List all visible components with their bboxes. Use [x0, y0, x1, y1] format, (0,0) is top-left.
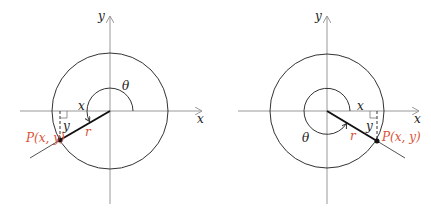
point-label: P(x, y) — [381, 130, 421, 144]
r-label: r — [350, 129, 357, 143]
y-axis-label: y — [314, 9, 322, 23]
right-angle-mark — [60, 111, 67, 118]
diagram-canvas: y x θ x y r P(x, y) y x θ x y r P(x, y) — [0, 0, 431, 214]
right-angle-mark — [370, 111, 377, 118]
x-axis-label: x — [197, 112, 204, 126]
point-label: P(x, y) — [25, 131, 65, 145]
x-axis-label: x — [414, 112, 421, 126]
r-label: r — [85, 125, 92, 139]
y-leg-label: y — [365, 119, 373, 133]
point-p — [375, 139, 380, 144]
x-leg-label: x — [78, 99, 85, 113]
right-diagram: y x θ x y r P(x, y) — [238, 9, 421, 204]
left-diagram: y x θ x y r P(x, y) — [20, 9, 204, 204]
theta-label: θ — [122, 79, 130, 93]
x-leg-label: x — [357, 99, 364, 113]
theta-label: θ — [302, 131, 310, 145]
y-axis-label: y — [97, 9, 105, 23]
